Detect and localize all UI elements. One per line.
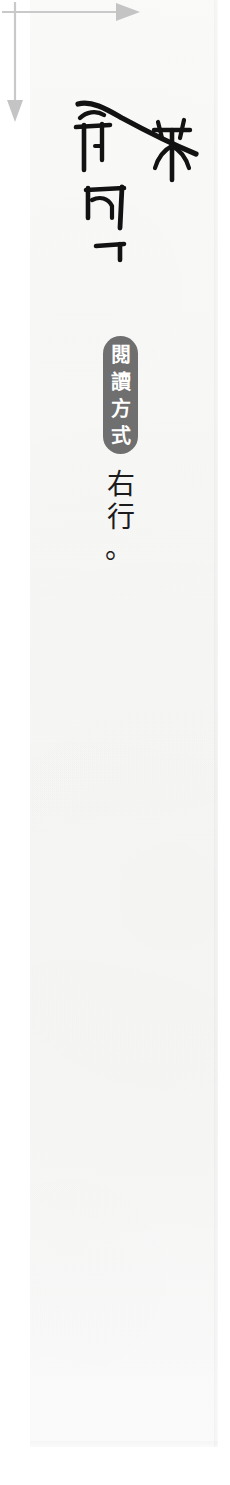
badge-char-4: 式 (111, 423, 131, 449)
seal-script-rubbing (62, 88, 208, 268)
paper-edge-bottom (30, 1441, 218, 1447)
reading-method-badge: 閱 讀 方 式 (103, 336, 138, 454)
caption-period: 。 (105, 534, 133, 564)
caption-char-2: 行 (107, 501, 135, 534)
caption-char-1: 右 (107, 468, 135, 501)
figure-page: 閱 讀 方 式 右 行 。 (0, 0, 230, 1485)
badge-char-1: 閱 (111, 342, 131, 368)
badge-char-3: 方 (111, 396, 131, 422)
badge-char-2: 讀 (111, 369, 131, 395)
paper-edge-right (214, 0, 218, 1447)
reading-direction-caption: 右 行 。 (104, 468, 138, 564)
